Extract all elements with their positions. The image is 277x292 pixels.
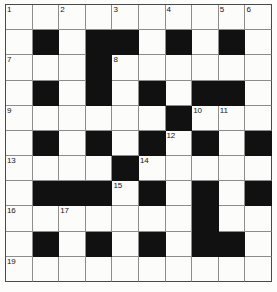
- answer-cell[interactable]: [245, 30, 272, 55]
- answer-cell[interactable]: [166, 55, 193, 80]
- answer-cell[interactable]: 2: [59, 5, 86, 30]
- answer-cell[interactable]: 4: [166, 5, 193, 30]
- answer-cell[interactable]: 6: [245, 5, 272, 30]
- answer-cell[interactable]: 1: [6, 5, 33, 30]
- answer-cell[interactable]: [192, 55, 219, 80]
- answer-cell[interactable]: [112, 232, 139, 257]
- answer-cell[interactable]: [245, 232, 272, 257]
- answer-cell[interactable]: [86, 257, 113, 282]
- answer-cell[interactable]: [112, 206, 139, 231]
- answer-cell[interactable]: [86, 106, 113, 131]
- answer-cell[interactable]: [166, 232, 193, 257]
- answer-cell[interactable]: [59, 81, 86, 106]
- answer-cell[interactable]: [166, 257, 193, 282]
- answer-cell[interactable]: [139, 5, 166, 30]
- answer-cell[interactable]: [219, 156, 246, 181]
- answer-cell[interactable]: [139, 55, 166, 80]
- answer-cell[interactable]: [219, 181, 246, 206]
- blocked-cell: [139, 181, 166, 206]
- answer-cell[interactable]: [192, 156, 219, 181]
- answer-cell[interactable]: [139, 206, 166, 231]
- answer-cell[interactable]: [112, 106, 139, 131]
- answer-cell[interactable]: [112, 257, 139, 282]
- answer-cell[interactable]: [245, 81, 272, 106]
- answer-cell[interactable]: [33, 106, 60, 131]
- blocked-cell: [139, 232, 166, 257]
- answer-cell[interactable]: 10: [192, 106, 219, 131]
- blocked-cell: [192, 131, 219, 156]
- answer-cell[interactable]: [6, 131, 33, 156]
- answer-cell[interactable]: [59, 257, 86, 282]
- answer-cell[interactable]: [86, 156, 113, 181]
- answer-cell[interactable]: [59, 30, 86, 55]
- blocked-cell: [219, 81, 246, 106]
- answer-cell[interactable]: 8: [112, 55, 139, 80]
- answer-cell[interactable]: [86, 206, 113, 231]
- clue-number-12: 12: [167, 131, 176, 141]
- answer-cell[interactable]: [59, 156, 86, 181]
- answer-cell[interactable]: [112, 131, 139, 156]
- answer-cell[interactable]: [6, 232, 33, 257]
- answer-cell[interactable]: [219, 131, 246, 156]
- answer-cell[interactable]: [33, 5, 60, 30]
- answer-cell[interactable]: [59, 232, 86, 257]
- blocked-cell: [192, 81, 219, 106]
- answer-cell[interactable]: [33, 257, 60, 282]
- clue-number-2: 2: [60, 5, 64, 15]
- answer-cell[interactable]: [59, 131, 86, 156]
- answer-cell[interactable]: 11: [219, 106, 246, 131]
- answer-cell[interactable]: [166, 181, 193, 206]
- blocked-cell: [33, 131, 60, 156]
- answer-cell[interactable]: [192, 257, 219, 282]
- answer-cell[interactable]: [192, 30, 219, 55]
- answer-cell[interactable]: 19: [6, 257, 33, 282]
- answer-cell[interactable]: [245, 156, 272, 181]
- blocked-cell: [86, 181, 113, 206]
- answer-cell[interactable]: [166, 206, 193, 231]
- crossword-grid[interactable]: 12345678910111213141516171819: [5, 4, 272, 282]
- answer-cell[interactable]: [219, 55, 246, 80]
- clue-number-14: 14: [140, 156, 149, 166]
- answer-cell[interactable]: [33, 55, 60, 80]
- blocked-cell: [166, 30, 193, 55]
- answer-cell[interactable]: [192, 5, 219, 30]
- answer-cell[interactable]: 3: [112, 5, 139, 30]
- answer-cell[interactable]: [166, 81, 193, 106]
- answer-cell[interactable]: [6, 81, 33, 106]
- answer-cell[interactable]: [219, 257, 246, 282]
- answer-cell[interactable]: [245, 55, 272, 80]
- blocked-cell: [192, 181, 219, 206]
- answer-cell[interactable]: 9: [6, 106, 33, 131]
- answer-cell[interactable]: 17: [59, 206, 86, 231]
- answer-cell[interactable]: [245, 206, 272, 231]
- clue-number-1: 1: [7, 5, 11, 15]
- answer-cell[interactable]: [139, 106, 166, 131]
- blocked-cell: [192, 232, 219, 257]
- answer-cell[interactable]: 15: [112, 181, 139, 206]
- answer-cell[interactable]: [59, 55, 86, 80]
- answer-cell[interactable]: [139, 257, 166, 282]
- blocked-cell: [33, 232, 60, 257]
- answer-cell[interactable]: 5: [219, 5, 246, 30]
- clue-number-17: 17: [60, 206, 69, 216]
- clue-number-18: 18: [193, 206, 202, 216]
- answer-cell[interactable]: [166, 156, 193, 181]
- answer-cell[interactable]: [245, 257, 272, 282]
- answer-cell[interactable]: [219, 206, 246, 231]
- answer-cell[interactable]: [6, 30, 33, 55]
- answer-cell[interactable]: [112, 81, 139, 106]
- answer-cell[interactable]: [33, 206, 60, 231]
- answer-cell[interactable]: [139, 30, 166, 55]
- clue-number-10: 10: [193, 106, 202, 116]
- answer-cell[interactable]: [86, 5, 113, 30]
- answer-cell[interactable]: [245, 106, 272, 131]
- answer-cell[interactable]: [33, 156, 60, 181]
- answer-cell[interactable]: 12: [166, 131, 193, 156]
- answer-cell[interactable]: [59, 106, 86, 131]
- answer-cell[interactable]: 13: [6, 156, 33, 181]
- answer-cell[interactable]: [6, 181, 33, 206]
- answer-cell[interactable]: 16: [6, 206, 33, 231]
- crossword-puzzle: 12345678910111213141516171819: [0, 0, 277, 292]
- answer-cell[interactable]: 14: [139, 156, 166, 181]
- answer-cell[interactable]: 7: [6, 55, 33, 80]
